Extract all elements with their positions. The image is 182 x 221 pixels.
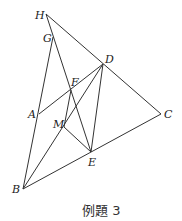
figure-caption: 例題 3: [82, 203, 120, 218]
segment-FM: [64, 90, 71, 127]
geometry-diagram: H G D F A C M E B 例題 3: [0, 0, 182, 221]
segment-BC: [23, 114, 161, 189]
label-C: C: [164, 108, 173, 121]
label-E: E: [87, 156, 96, 169]
label-D: D: [104, 53, 114, 66]
segment-DE: [91, 64, 103, 152]
label-B: B: [11, 183, 20, 196]
segment-AD: [39, 64, 103, 114]
label-A: A: [27, 108, 36, 121]
label-F: F: [70, 76, 79, 89]
label-G: G: [43, 32, 52, 45]
segment-HC: [46, 14, 161, 114]
label-H: H: [34, 9, 45, 22]
label-M: M: [52, 118, 65, 131]
